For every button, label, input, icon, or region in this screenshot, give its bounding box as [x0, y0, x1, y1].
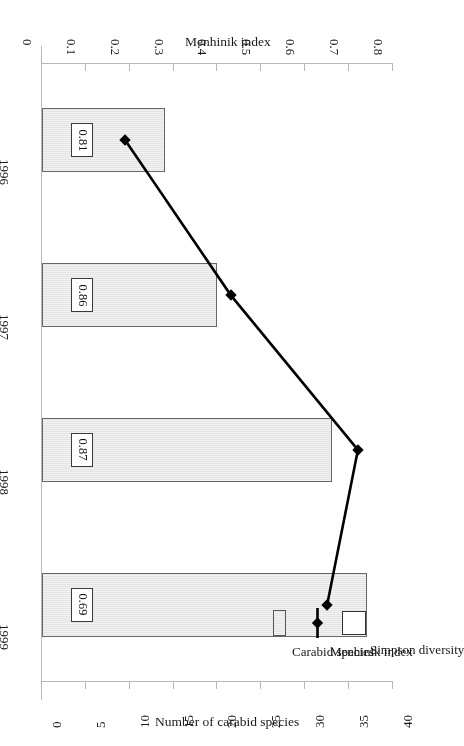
simpson-diversity-label-1997: 0.86 [71, 278, 93, 312]
top-axis-tick [260, 63, 261, 71]
top-axis-tick-label: 0.2 [107, 39, 123, 55]
simpson-diversity-value: 0.81 [75, 129, 90, 151]
bottom-axis-tick-label: 30 [312, 715, 328, 728]
bottom-axis-tick-label: 5 [93, 722, 109, 729]
legend-label-simpson-diversity: Simpson diversity [370, 642, 464, 658]
bottom-axis-tick-label: 35 [356, 715, 372, 728]
bottom-axis-tick [260, 681, 261, 689]
bottom-axis-tick [41, 681, 42, 700]
simpson-diversity-value: 0.69 [75, 594, 90, 616]
chart-legend: Carabid species Menhinik index Simpson d… [230, 476, 390, 636]
legend-line-diamond-icon [311, 608, 324, 638]
bottom-axis-tick-label: 10 [137, 715, 153, 728]
top-axis-tick-label: 0.3 [151, 39, 167, 55]
bottom-axis-title: Number of carabid species [155, 714, 299, 730]
simpson-diversity-value: 0.86 [75, 284, 90, 306]
top-axis-tick [41, 46, 42, 64]
top-axis-tick [129, 63, 130, 71]
bottom-axis-tick [217, 681, 218, 689]
category-label-1998: 1998 [0, 469, 12, 495]
bottom-axis-tick [85, 681, 86, 689]
top-axis-tick [85, 63, 86, 71]
simpson-diversity-label-1998: 0.87 [71, 433, 93, 467]
top-axis-tick-label: 0.8 [370, 39, 386, 55]
bottom-axis-tick [304, 681, 305, 689]
bottom-axis-tick [348, 681, 349, 689]
bottom-axis-tick [392, 681, 393, 689]
top-axis-title: Menhinik index [185, 34, 271, 50]
menhinik-marker-1997[interactable] [225, 289, 236, 300]
bar-1997[interactable] [42, 263, 218, 327]
bottom-axis-tick-label: 0 [49, 722, 65, 729]
menhinik-marker-1998[interactable] [352, 444, 363, 455]
top-axis-tick-label: 0.7 [326, 39, 342, 55]
top-axis-tick [392, 63, 393, 71]
category-label-1999: 1999 [0, 624, 12, 650]
top-axis-tick [173, 63, 174, 71]
bottom-axis-tick-label: 40 [400, 715, 416, 728]
legend-bar-swatch-icon [273, 610, 286, 636]
simpson-diversity-value: 0.87 [75, 439, 90, 461]
top-axis-tick-label: 0 [19, 39, 35, 46]
top-axis-tick [217, 63, 218, 71]
top-axis-tick-label: 0.1 [63, 39, 79, 55]
bar-1996[interactable] [42, 108, 165, 172]
legend-open-box-icon [342, 611, 366, 635]
bottom-axis-tick [173, 681, 174, 689]
top-axis-tick [348, 63, 349, 71]
bottom-axis-tick [129, 681, 130, 689]
simpson-diversity-label-1999: 0.69 [71, 588, 93, 622]
category-label-1996: 1996 [0, 159, 12, 185]
top-axis-tick [304, 63, 305, 71]
simpson-diversity-label-1996: 0.81 [71, 123, 93, 157]
category-label-1997: 1997 [0, 314, 12, 340]
top-axis-tick-label: 0.6 [282, 39, 298, 55]
